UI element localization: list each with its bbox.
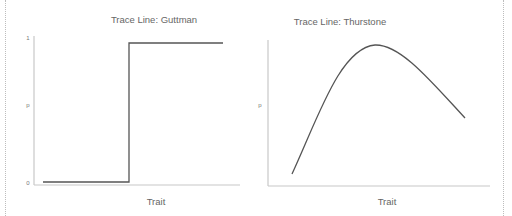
guttman-y-label: p	[26, 102, 30, 108]
guttman-tick-0: 0	[26, 180, 30, 186]
guttman-chart: Trace Line: Guttman 1 p 0 Trait	[26, 14, 240, 207]
thurstone-chart: Trace Line: Thurstone p Trait	[258, 16, 490, 207]
thurstone-title: Trace Line: Thurstone	[294, 16, 386, 27]
thurstone-y-label: p	[258, 102, 262, 108]
guttman-title: Trace Line: Guttman	[111, 14, 197, 25]
trace-lines-figure: Trace Line: Guttman 1 p 0 Trait Trace Li…	[0, 0, 512, 216]
guttman-tick-1: 1	[26, 35, 30, 41]
guttman-x-label: Trait	[147, 196, 166, 207]
thurstone-curve	[292, 45, 465, 174]
thurstone-x-label: Trait	[378, 196, 397, 207]
guttman-step-line	[43, 43, 223, 182]
